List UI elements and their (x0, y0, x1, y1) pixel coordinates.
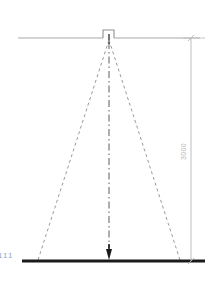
beam-edge-right-icon (109, 40, 180, 260)
center-arrowhead-icon (106, 249, 112, 260)
drawing-canvas: 3000 111 (0, 0, 222, 284)
floor-level-tag: 111 (0, 251, 14, 260)
dimension-height-value: 3000 (180, 143, 187, 160)
beam-edge-left-icon (38, 40, 109, 260)
elevation-drawing-svg (0, 0, 222, 284)
